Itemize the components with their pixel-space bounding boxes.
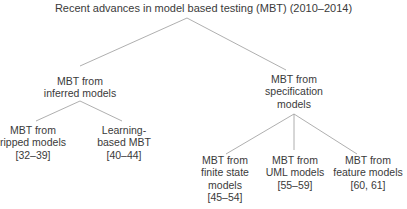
edge-root-inferred xyxy=(80,18,187,66)
node-line: [40–44] xyxy=(89,149,159,161)
node-line: MBT from xyxy=(328,154,407,166)
node-line: [55–59] xyxy=(255,179,335,191)
edge-spec-finite xyxy=(226,114,294,154)
node-line: MBT from xyxy=(30,75,130,87)
root-node: Recent advances in model based testing (… xyxy=(0,2,407,14)
node-line: MBT from xyxy=(0,124,78,136)
node-uml-models: MBT from UML models [55–59] xyxy=(255,154,335,191)
edge-root-specification xyxy=(187,18,286,70)
root-label: Recent advances in model based testing (… xyxy=(0,2,407,14)
node-finite-state: MBT from finite state models [45–54] xyxy=(190,154,260,203)
node-line: based MBT xyxy=(89,136,159,148)
node-line: specification xyxy=(244,85,344,97)
node-line: UML models xyxy=(255,166,335,178)
node-line: [32–39] xyxy=(0,149,78,161)
node-line: [60, 61] xyxy=(328,179,407,191)
node-feature-models: MBT from feature models [60, 61] xyxy=(328,154,407,191)
node-inferred-models: MBT from inferred models xyxy=(30,75,130,100)
node-line: inferred models xyxy=(30,87,130,99)
node-line: [45–54] xyxy=(190,191,260,203)
node-line: Learning- xyxy=(89,124,159,136)
node-line: models xyxy=(190,179,260,191)
edge-inferred-ripped xyxy=(36,101,80,121)
node-line: ripped models xyxy=(0,136,78,148)
node-learning-based: Learning- based MBT [40–44] xyxy=(89,124,159,161)
node-ripped-models: MBT from ripped models [32–39] xyxy=(0,124,78,161)
node-line: models xyxy=(244,98,344,110)
node-line: MBT from xyxy=(255,154,335,166)
node-line: finite state xyxy=(190,166,260,178)
node-line: feature models xyxy=(328,166,407,178)
edge-spec-feature xyxy=(294,114,357,154)
node-spec-models: MBT from specification models xyxy=(244,73,344,110)
edge-inferred-learning xyxy=(80,101,122,121)
node-line: MBT from xyxy=(190,154,260,166)
node-line: MBT from xyxy=(244,73,344,85)
